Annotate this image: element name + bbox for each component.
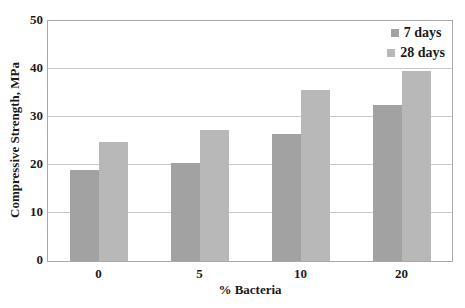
x-tick-label-10: 10: [271, 266, 331, 282]
bar-7-days-10: [272, 134, 301, 261]
x-tick-label-5: 5: [170, 266, 230, 282]
legend: 7 days28 days: [387, 23, 445, 63]
bar-28-days-10: [301, 90, 330, 261]
y-tick-label-20: 20: [6, 156, 43, 172]
bar-7-days-0: [70, 170, 99, 261]
legend-label: 7 days: [404, 26, 442, 40]
x-axis-title: % Bacteria: [47, 282, 453, 298]
y-tick-label-0: 0: [6, 252, 43, 268]
y-tick-label-10: 10: [6, 204, 43, 220]
y-tick-label-40: 40: [6, 60, 43, 76]
legend-label: 28 days: [400, 46, 445, 60]
y-tick-label-30: 30: [6, 108, 43, 124]
bar-28-days-5: [200, 130, 229, 261]
bar-28-days-20: [402, 71, 431, 261]
legend-swatch-icon: [387, 49, 395, 57]
bar-28-days-0: [99, 142, 128, 261]
plot-area: 7 days28 days: [47, 20, 453, 262]
bar-group-5: [149, 21, 250, 261]
y-tick-label-50: 50: [6, 12, 43, 28]
legend-swatch-icon: [391, 29, 399, 37]
compressive-strength-bar-chart: Compressive Strength, MPa 7 days28 days …: [0, 0, 465, 308]
legend-item-7-days: 7 days: [391, 26, 442, 40]
x-tick-label-20: 20: [372, 266, 432, 282]
bar-7-days-20: [373, 105, 402, 261]
x-tick-label-0: 0: [69, 266, 129, 282]
bar-group-0: [48, 21, 149, 261]
bar-group-10: [250, 21, 351, 261]
legend-item-28-days: 28 days: [387, 46, 445, 60]
bar-7-days-5: [171, 163, 200, 261]
y-axis-title: Compressive Strength, MPa: [7, 62, 23, 218]
